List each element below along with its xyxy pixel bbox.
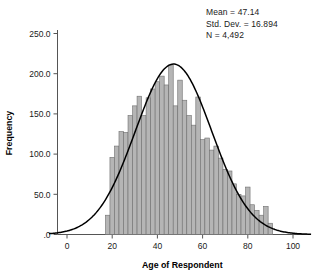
x-tick-label: 60 <box>198 241 208 251</box>
y-tick-label: 150.0 <box>29 109 51 119</box>
y-tick-label: 200.0 <box>29 69 51 79</box>
histogram-bar <box>237 194 242 234</box>
histogram-bar <box>110 157 115 234</box>
histogram-bar <box>105 215 110 234</box>
y-tick-label: .0 <box>43 230 50 240</box>
histogram-bar <box>142 116 147 235</box>
histogram-bar <box>128 116 133 235</box>
histogram-bar <box>146 98 151 235</box>
histogram-bar <box>255 210 260 234</box>
histogram-bar <box>264 206 269 234</box>
histogram-bar <box>173 106 178 235</box>
x-tick-label: 100 <box>286 241 300 251</box>
x-tick-label: 0 <box>65 241 70 251</box>
histogram-bar <box>114 146 119 234</box>
y-tick-label: 250.0 <box>29 29 51 39</box>
histogram-bar <box>160 76 165 234</box>
y-axis-ticks: .050.0100.0150.0200.0250.0 <box>29 29 57 240</box>
histogram-bar <box>182 100 187 234</box>
histogram-bar <box>218 158 223 234</box>
histogram-bar <box>169 65 174 235</box>
histogram-bar <box>119 132 124 235</box>
plot-area: .050.0100.0150.0200.0250.0 020406080100 … <box>0 0 324 276</box>
histogram-bar <box>209 150 214 234</box>
histogram-bar <box>205 138 210 234</box>
histogram-bar <box>133 106 138 235</box>
histogram-bar <box>155 82 160 235</box>
x-axis-title: Age of Respondent <box>142 260 223 270</box>
histogram-bar <box>250 205 255 235</box>
histogram-bar <box>164 85 169 235</box>
y-axis-title: Frequency <box>4 111 14 156</box>
histogram-bar <box>178 80 183 234</box>
x-axis-ticks: 020406080100 <box>65 235 301 251</box>
histogram-figure: Mean = 47.14 Std. Dev. = 16.894 N = 4,49… <box>0 0 324 276</box>
histogram-bar <box>124 132 129 234</box>
histogram-bar <box>151 89 156 235</box>
y-tick-label: 50.0 <box>34 190 51 200</box>
histogram-bar <box>196 97 201 234</box>
histogram-bar <box>200 140 205 235</box>
x-tick-label: 40 <box>153 241 163 251</box>
x-tick-label: 80 <box>243 241 253 251</box>
histogram-bar <box>214 146 219 234</box>
histogram-bar <box>223 169 228 234</box>
y-tick-label: 100.0 <box>29 149 51 159</box>
histogram-bar <box>187 116 192 235</box>
histogram-bar <box>232 184 237 235</box>
x-tick-label: 20 <box>107 241 117 251</box>
histogram-bar <box>191 125 196 234</box>
histogram-bar <box>259 215 264 234</box>
